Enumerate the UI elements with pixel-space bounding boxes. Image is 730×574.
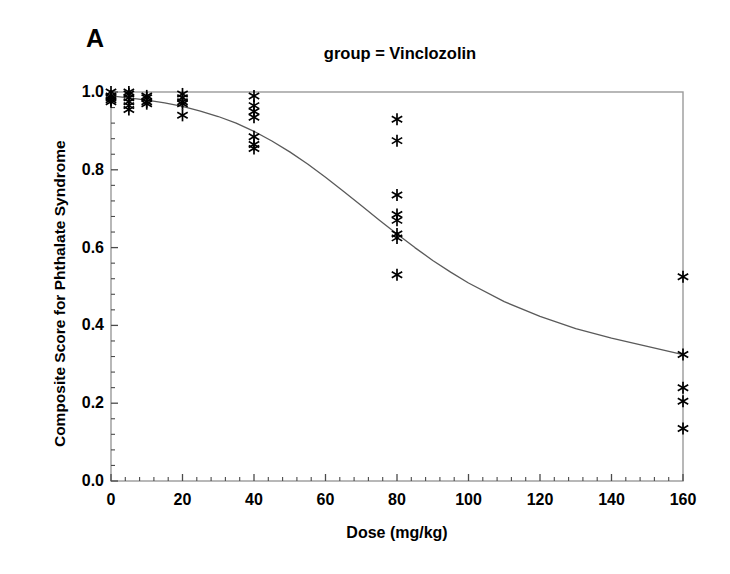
data-points — [106, 86, 688, 434]
data-point-marker — [392, 135, 402, 147]
figure-panel: A group = Vinclozolin Composite Score fo… — [0, 0, 730, 574]
data-point-marker — [392, 232, 402, 244]
data-point-marker — [678, 349, 688, 361]
data-point-marker — [392, 269, 402, 281]
data-point-marker — [177, 109, 187, 121]
plot-frame — [111, 92, 683, 481]
data-point-marker — [678, 395, 688, 407]
data-point-marker — [392, 113, 402, 125]
data-point-marker — [249, 142, 259, 154]
data-point-marker — [678, 382, 688, 394]
axis-ticks — [111, 92, 683, 481]
data-point-marker — [392, 189, 402, 201]
plot-area — [0, 0, 730, 574]
data-point-marker — [678, 422, 688, 434]
data-point-marker — [678, 271, 688, 283]
data-point-marker — [124, 104, 134, 116]
